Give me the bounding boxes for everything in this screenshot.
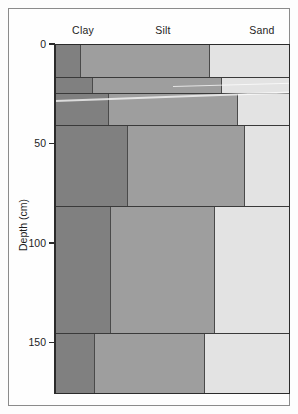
soil-segment-sand	[210, 44, 290, 77]
y-tick-label: 0	[40, 38, 46, 50]
soil-segment-sand	[215, 207, 290, 333]
soil-layer-row	[55, 126, 290, 208]
y-tick-label: 50	[34, 137, 46, 149]
soil-layer-row	[55, 78, 290, 94]
soil-segment-silt	[95, 334, 205, 394]
soil-segment-sand	[222, 78, 290, 93]
y-tick-label: 150	[28, 336, 46, 348]
soil-segment-silt	[109, 94, 238, 125]
soil-segment-silt	[111, 207, 214, 333]
soil-layer-row	[55, 334, 290, 394]
soil-segment-clay	[55, 94, 109, 125]
soil-layer-row	[55, 44, 290, 78]
soil-segment-sand	[245, 126, 290, 207]
soil-layer-row	[55, 207, 290, 334]
column-header-silt: Silt	[155, 24, 170, 36]
soil-segment-clay	[55, 126, 128, 207]
soil-segment-sand	[205, 334, 290, 394]
soil-segment-silt	[93, 78, 222, 93]
soil-segment-clay	[55, 207, 111, 333]
soil-segment-sand	[238, 94, 290, 125]
soil-segment-silt	[81, 44, 210, 77]
soil-segment-clay	[55, 78, 93, 93]
plot-area	[55, 44, 290, 394]
y-axis-title: Depth (cm)	[17, 180, 29, 270]
column-header-sand: Sand	[249, 24, 274, 36]
y-tick-label: 100	[28, 237, 46, 249]
soil-segment-silt	[128, 126, 246, 207]
soil-layer-row	[55, 94, 290, 126]
soil-segment-clay	[55, 334, 95, 394]
soil-segment-clay	[55, 44, 81, 77]
column-header-clay: Clay	[72, 24, 94, 36]
soil-texture-depth-figure: Clay Silt Sand Depth (cm) 050100150	[0, 0, 298, 414]
